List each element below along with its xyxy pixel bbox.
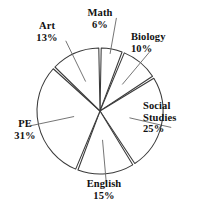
pie-label-social-studies-percent: 25% (143, 123, 205, 135)
pie-label-english-percent: 15% (73, 190, 135, 202)
pie-label-biology-percent: 10% (131, 43, 193, 55)
pie-label-pe-percent: 31% (2, 130, 48, 142)
pie-label-math-name: Math (71, 7, 129, 19)
pie-label-social-studies: Social Studies 25% (143, 100, 205, 135)
pie-label-pe: PE 31% (2, 118, 48, 141)
pie-label-math-percent: 6% (71, 19, 129, 31)
pie-label-biology-name: Biology (131, 31, 193, 43)
pie-label-art-percent: 13% (22, 32, 72, 44)
pie-label-pe-name: PE (2, 118, 48, 130)
pie-label-english: English 15% (73, 178, 135, 201)
pie-label-art-name: Art (22, 20, 72, 32)
pie-label-art: Art 13% (22, 20, 72, 43)
pie-label-math: Math 6% (71, 7, 129, 30)
pie-label-social-studies-name2: Studies (143, 112, 205, 124)
pie-label-english-name: English (73, 178, 135, 190)
pie-label-biology: Biology 10% (131, 31, 193, 54)
pie-chart: Math 6% Art 13% Biology 10% Social Studi… (0, 0, 207, 214)
pie-label-social-studies-name: Social (143, 100, 205, 112)
